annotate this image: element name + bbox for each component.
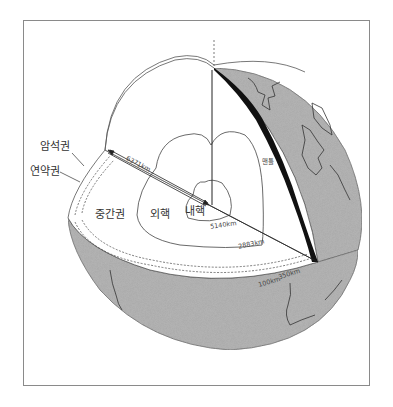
label-outer-core: 외핵 xyxy=(150,205,170,221)
label-inner-core: 내핵 xyxy=(185,202,205,218)
leader-lines xyxy=(60,153,84,182)
label-lithosphere: 암석권 xyxy=(40,137,70,153)
label-mesosphere: 중간권 xyxy=(95,205,125,221)
label-mantle: 맨틀 xyxy=(262,156,274,166)
label-asthenosphere: 연약권 xyxy=(30,162,60,178)
